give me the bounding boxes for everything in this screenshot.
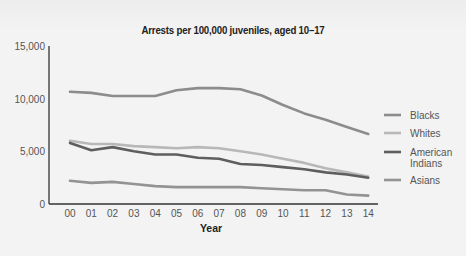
x-tick-label: 02 [107,208,119,219]
legend: BlacksWhitesAmericanIndiansAsians [384,110,452,186]
x-tick-label: 12 [320,208,332,219]
y-tick-label: 5,000 [20,146,45,157]
x-tick-label: 00 [64,208,76,219]
x-tick-label: 10 [277,208,289,219]
x-tick-label: 08 [235,208,247,219]
legend-label: Indians [410,158,442,169]
series-lines [70,88,368,196]
x-tick-label: 13 [341,208,353,219]
x-tick-label: 03 [128,208,140,219]
series-line-blacks [70,88,368,134]
x-tick-label: 06 [192,208,204,219]
legend-label: Whites [410,128,441,139]
y-tick-label: 0 [39,199,45,210]
x-tick-label: 01 [86,208,98,219]
axes: 05,00010,00015,0000001020304050607080910… [14,41,378,234]
x-tick-label: 11 [299,208,310,219]
x-axis-title: Year [200,222,222,234]
x-tick-label: 14 [363,208,375,219]
x-tick-label: 07 [214,208,226,219]
x-tick-label: 09 [256,208,268,219]
legend-label: Blacks [410,110,439,121]
y-tick-label: 15,000 [14,41,45,52]
legend-label: Asians [410,175,440,186]
x-tick-label: 04 [150,208,162,219]
legend-label: American [410,147,452,158]
x-tick-label: 05 [171,208,183,219]
series-line-asians [70,181,368,196]
line-chart: 05,00010,00015,0000001020304050607080910… [0,0,466,256]
y-tick-label: 10,000 [14,94,45,105]
